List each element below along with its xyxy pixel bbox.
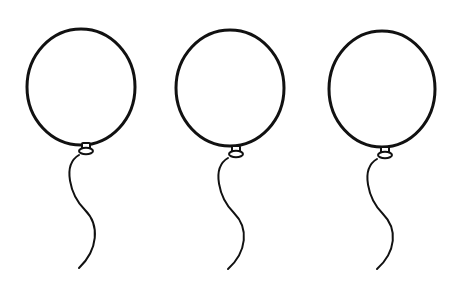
balloon-body <box>329 31 435 147</box>
balloon-knot <box>79 143 93 154</box>
balloon-3 <box>329 31 435 269</box>
balloon-string <box>218 158 243 269</box>
balloon-body <box>176 30 284 146</box>
balloon-2 <box>176 30 284 269</box>
balloon-string <box>367 159 392 269</box>
balloon-knot <box>378 147 392 158</box>
balloons-drawing <box>0 0 459 289</box>
balloon-string <box>69 155 94 268</box>
balloon-illustration <box>0 0 459 289</box>
balloon-body <box>27 29 135 145</box>
balloon-1 <box>27 29 135 268</box>
balloon-knot <box>229 146 243 157</box>
